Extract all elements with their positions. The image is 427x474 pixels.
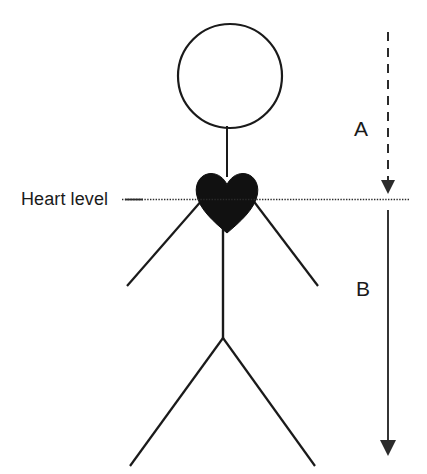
head-icon — [178, 24, 282, 128]
left-leg-line — [130, 338, 223, 466]
right-leg-line — [223, 338, 315, 466]
segment-a-arrowhead-icon — [381, 180, 395, 194]
heart-icon — [196, 174, 258, 234]
left-arm-line — [127, 199, 203, 286]
heart-level-diagram — [0, 0, 427, 474]
segment-b-label: B — [356, 278, 370, 299]
segment-a-label: A — [354, 118, 368, 139]
heart-level-label: Heart level — [21, 190, 108, 208]
figure-canvas: Heart level A B — [0, 0, 427, 474]
segment-b-arrowhead-icon — [380, 440, 396, 456]
right-arm-line — [252, 199, 318, 286]
